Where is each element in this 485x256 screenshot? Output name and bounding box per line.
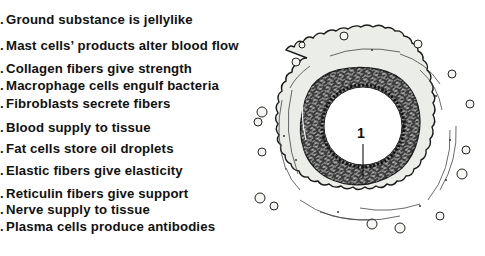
vessel-diagram: .Ground substance is jellylike .Mast cel… xyxy=(0,0,485,256)
vessel-cross-section xyxy=(0,0,485,256)
callout-number-1: 1 xyxy=(357,125,365,141)
